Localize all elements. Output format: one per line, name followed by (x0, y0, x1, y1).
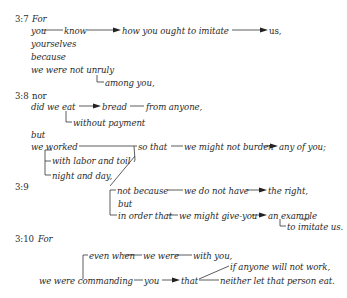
v9-nb-verb: we do not have (184, 186, 249, 196)
verse-ref-3-9: 3:9 (15, 182, 29, 192)
v7-conjunction: For (32, 14, 46, 24)
v7-object: us, (269, 26, 281, 36)
verse-ref-3-7: 3:7 (15, 14, 29, 24)
v7-object-clause: how you ought to imitate (122, 26, 229, 36)
verse-ref-3-10: 3:10 (15, 234, 34, 244)
v9-iot-object: an example (268, 211, 317, 221)
v8-manner1: with labor and toil (52, 156, 130, 166)
verse-ref-3-8: 3:8 (15, 91, 29, 101)
v8-purpose-verb: we might not burden (184, 142, 274, 152)
v10-indirect-object: you (144, 276, 159, 286)
v8-clause1-object: bread (102, 102, 127, 112)
v10-ew-complement: with you, (193, 251, 232, 261)
v8-purpose-conj: so that (138, 142, 167, 152)
v10-ew-subject: we were (143, 251, 179, 261)
v8-clause2-verb: we worked (31, 142, 78, 152)
v10-conjunction: For (38, 234, 52, 244)
v10-command: neither let that person eat. (220, 276, 335, 286)
v7-because: because (31, 52, 66, 62)
v8-clause1-verb: did we eat (31, 102, 75, 112)
v7-reason: we were not unruly (31, 65, 114, 75)
v7-verb: know (64, 26, 87, 36)
v10-main-verb: we were commanding (39, 276, 133, 286)
v8-clause1-source: from anyone, (146, 102, 202, 112)
v8-but: but (31, 130, 45, 140)
v9-iot-verb: we might give-you (179, 211, 257, 221)
v7-intensive: yourselves (31, 39, 76, 49)
v9-in-order-that: in order that (118, 211, 172, 221)
v7-among: among you, (105, 78, 155, 88)
v9-iot-modifier: to imitate us. (287, 222, 343, 232)
v9-but: but (118, 199, 132, 209)
v9-not-because: not because (117, 186, 168, 196)
v9-nb-object: the right, (268, 186, 308, 196)
v8-conjunction: nor (32, 91, 47, 101)
v10-condition: if anyone will not work, (230, 262, 330, 272)
v10-even-when: even when (89, 251, 135, 261)
v10-that: that (181, 276, 198, 286)
v8-manner2: night and day, (52, 171, 112, 181)
v7-subject: you (31, 26, 46, 36)
v8-purpose-object: any of you; (279, 142, 326, 152)
v8-clause1-manner: without payment (73, 118, 145, 128)
